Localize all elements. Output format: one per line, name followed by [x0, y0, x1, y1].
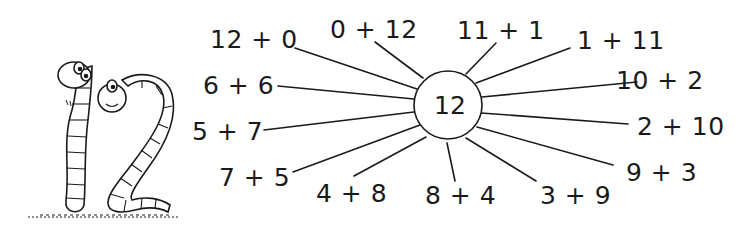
ground-hatch — [28, 215, 180, 217]
expression-label: 7 + 5 — [219, 165, 290, 190]
number-bond-diagram: 12 12 + 0 0 + 12 11 + 1 1 + 11 10 + 2 2 … — [0, 0, 738, 235]
center-number: 12 — [434, 93, 466, 118]
expression-label: 0 + 12 — [330, 17, 418, 42]
expression-label: 10 + 2 — [616, 68, 704, 93]
expression-label: 6 + 6 — [203, 73, 274, 98]
expression-label: 11 + 1 — [457, 18, 545, 43]
expression-label: 8 + 4 — [425, 183, 496, 208]
worms-illustration — [28, 62, 180, 217]
expression-label: 3 + 9 — [540, 183, 611, 208]
expression-label: 12 + 0 — [210, 27, 298, 52]
expression-label: 9 + 3 — [626, 160, 697, 185]
expression-label: 2 + 10 — [637, 114, 725, 139]
expression-label: 5 + 7 — [192, 119, 263, 144]
expression-label: 1 + 11 — [577, 28, 665, 53]
expression-label: 4 + 8 — [316, 181, 387, 206]
